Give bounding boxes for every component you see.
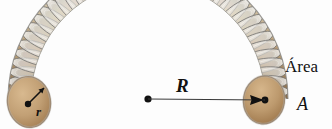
label-major-radius: R: [176, 76, 189, 95]
coil-turn: [121, 0, 142, 8]
coil-turn: [173, 0, 204, 15]
coil-turn: [131, 0, 149, 7]
coil-turn: [180, 0, 214, 17]
toroid-figure: [0, 0, 332, 129]
tube-inner-edge: [31, 0, 265, 99]
coil-turn: [111, 0, 136, 10]
label-area-symbol: A: [297, 95, 308, 113]
coil-turn: [148, 0, 166, 7]
coil-turn: [92, 0, 123, 15]
label-minor-radius: r: [36, 105, 41, 118]
coil-turn: [141, 0, 155, 6]
label-area-word: Área: [285, 58, 318, 75]
coil-turn: [167, 0, 195, 12]
coil-turn: [82, 0, 116, 17]
coil-turn: [154, 0, 175, 8]
coil-turn: [101, 0, 129, 12]
coil-turn: [161, 0, 186, 10]
